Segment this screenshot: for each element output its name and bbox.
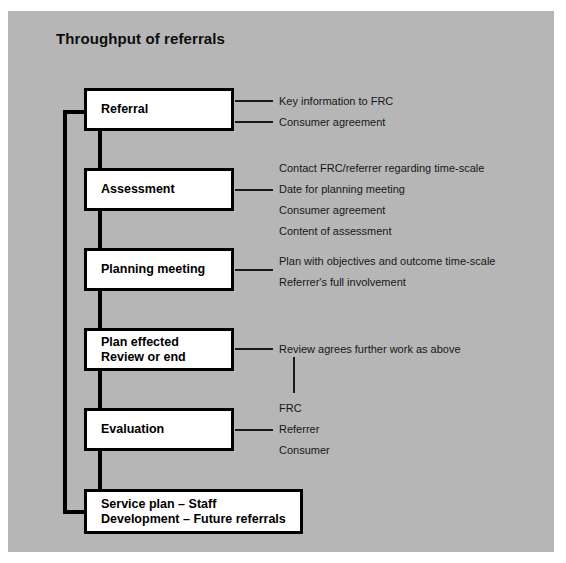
connector-plan-effected-to-evaluation xyxy=(98,368,102,410)
process-box-planning-meeting-label: Planning meeting xyxy=(87,262,205,277)
annotation-tick-plan-effected xyxy=(235,348,273,350)
annotation-tick-assessment xyxy=(235,189,273,191)
annotation-evaluation-2: Referrer xyxy=(279,419,319,440)
annotation-assessment-3: Consumer agreement xyxy=(279,200,385,221)
annotation-plan-effected-1: Review agrees further work as above xyxy=(279,339,461,360)
process-box-plan-effected[interactable]: Plan effected Review or end xyxy=(84,328,234,371)
annotation-referral-2: Consumer agreement xyxy=(279,112,385,133)
connector-planning-to-plan-effected xyxy=(98,288,102,330)
annotation-assessment-4: Content of assessment xyxy=(279,221,392,242)
annotation-tick-planning-meeting xyxy=(235,269,273,271)
process-box-planning-meeting[interactable]: Planning meeting xyxy=(84,248,234,291)
annotation-tick-evaluation xyxy=(235,429,273,431)
annotation-evaluation-3: Consumer xyxy=(279,440,330,461)
annotation-assessment-1: Contact FRC/referrer regarding time-scal… xyxy=(279,158,484,179)
process-box-evaluation[interactable]: Evaluation xyxy=(84,408,234,451)
process-box-service-plan[interactable]: Service plan – Staff Development – Futur… xyxy=(84,489,303,534)
connector-referral-to-assessment xyxy=(98,128,102,170)
annotation-tick-referral-2 xyxy=(235,121,273,123)
process-box-referral[interactable]: Referral xyxy=(84,88,234,131)
annotation-planning-meeting-2: Referrer's full involvement xyxy=(279,272,406,293)
connector-evaluation-to-service-plan xyxy=(98,448,102,492)
process-box-evaluation-label: Evaluation xyxy=(87,422,164,437)
process-box-referral-label: Referral xyxy=(87,102,148,117)
feedback-loop-vertical-segment xyxy=(63,110,67,514)
process-box-service-plan-label: Service plan – Staff Development – Futur… xyxy=(87,497,286,527)
diagram-canvas: Throughput of referrals Referral Key inf… xyxy=(0,0,566,563)
process-box-assessment-label: Assessment xyxy=(87,182,175,197)
annotation-descender-review-to-evaluation xyxy=(293,357,295,393)
process-box-plan-effected-label: Plan effected Review or end xyxy=(87,335,186,365)
diagram-title: Throughput of referrals xyxy=(56,30,225,47)
annotation-assessment-2: Date for planning meeting xyxy=(279,179,405,200)
annotation-tick-referral-1 xyxy=(235,100,273,102)
annotation-referral-1: Key information to FRC xyxy=(279,91,393,112)
connector-assessment-to-planning xyxy=(98,208,102,250)
annotation-evaluation-1: FRC xyxy=(279,398,302,419)
process-box-assessment[interactable]: Assessment xyxy=(84,168,234,211)
annotation-planning-meeting-1: Plan with objectives and outcome time-sc… xyxy=(279,251,495,272)
